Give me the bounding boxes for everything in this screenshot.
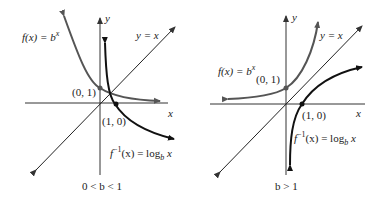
exponential-curve: [228, 22, 318, 99]
logarithm-curve: [290, 67, 362, 165]
exp-function-label: f(x) = bx: [22, 30, 59, 43]
graph-panel-increasing: f(x) = bx y = x y x (0, 1) (1, 0) f−1(x)…: [190, 0, 377, 206]
point-1-0: [300, 102, 305, 107]
x-axis-label: x: [356, 108, 361, 119]
log-function-label: f−1(x) = logb x: [110, 146, 172, 162]
point-1-0-label: (1, 0): [102, 116, 126, 127]
y-axis-label: y: [292, 12, 297, 23]
point-0-1-label: (0, 1): [72, 87, 96, 98]
exp-function-label: f(x) = bx: [218, 64, 255, 77]
graph-canvas: [190, 0, 377, 206]
log-function-label: f−1(x) = logb x: [294, 131, 356, 147]
point-0-1: [284, 86, 289, 91]
point-1-0-label: (1, 0): [302, 110, 326, 121]
point-0-1: [98, 86, 103, 91]
identity-label: y = x: [136, 30, 159, 41]
condition-label: b > 1: [275, 181, 298, 192]
condition-label: 0 < b < 1: [82, 181, 122, 192]
identity-label: y = x: [320, 30, 343, 41]
point-0-1-label: (0, 1): [256, 74, 280, 85]
point-1-0: [114, 102, 119, 107]
y-axis-label: y: [105, 13, 110, 24]
graph-panel-decreasing: f(x) = bx y = x y x (0, 1) (1, 0) f−1(x)…: [0, 0, 190, 206]
x-axis-label: x: [168, 108, 173, 119]
